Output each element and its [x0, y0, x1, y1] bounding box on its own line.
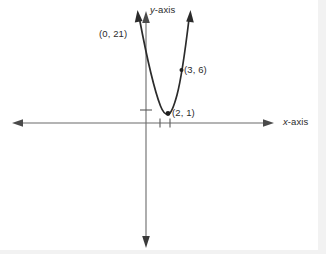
point-marker-vertex — [166, 111, 171, 116]
parabola-left-branch-arrowhead — [135, 10, 143, 23]
parabola-right-branch-arrowhead — [186, 10, 194, 23]
x-axis-right-arrowhead — [263, 119, 274, 127]
x-axis-label: x-axis — [283, 116, 308, 127]
point-label-three-six: (3, 6) — [184, 64, 207, 75]
y-axis-label: y-axis — [150, 4, 175, 15]
point-label-vertex: (2, 1) — [172, 107, 195, 118]
x-axis-left-arrowhead — [12, 119, 23, 127]
tick-marks-group — [140, 110, 170, 128]
y-axis-up-arrowhead — [142, 11, 150, 23]
parabola-curve-group — [135, 10, 194, 114]
y-axis-label-suffix: -axis — [155, 4, 176, 15]
x-axis-group — [12, 119, 274, 127]
y-axis-down-arrowhead — [142, 236, 150, 248]
y-axis-group — [142, 11, 150, 248]
parabola-curve — [140, 19, 190, 114]
point-label-y-intercept: (0, 21) — [99, 28, 127, 39]
parabola-figure: y-axis x-axis (0, 21) (3, 6) (2, 1) — [0, 0, 326, 254]
x-axis-label-suffix: -axis — [288, 116, 309, 127]
graph-canvas — [0, 0, 326, 254]
point-marker-three-six — [180, 68, 184, 72]
